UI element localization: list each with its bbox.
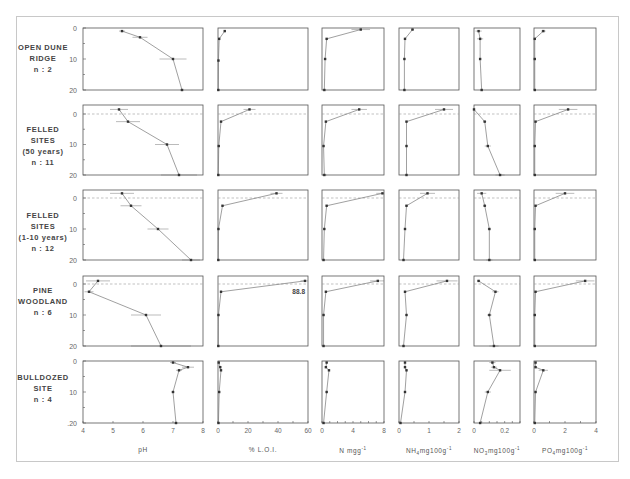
site-label-line: RIDGE	[11, 53, 75, 64]
data-point	[443, 108, 445, 110]
data-point	[325, 361, 327, 363]
data-point	[217, 422, 219, 424]
profile-line	[535, 109, 568, 175]
data-point	[404, 38, 406, 40]
profile-line	[480, 363, 500, 423]
y-tick-label: 20	[69, 257, 77, 264]
site-label: FELLEDSITES(50 years)n : 11	[11, 124, 75, 168]
data-point	[534, 345, 536, 347]
panel-ph: 010.2045678	[67, 358, 205, 435]
data-point	[181, 89, 183, 91]
data-point	[402, 259, 404, 261]
data-point	[217, 345, 219, 347]
data-point	[323, 174, 325, 176]
data-point	[405, 174, 407, 176]
data-point	[479, 58, 481, 60]
site-label: FELLEDSITES(1-10 years)n : 12	[11, 210, 75, 254]
data-point	[403, 89, 405, 91]
data-point	[220, 369, 222, 371]
profile-line	[218, 109, 249, 175]
data-point	[494, 291, 496, 293]
data-point	[248, 108, 250, 110]
data-point	[121, 30, 123, 32]
data-point	[404, 228, 406, 230]
site-label-line: (50 years)	[11, 146, 75, 157]
profile-line	[535, 193, 565, 260]
data-point	[325, 391, 327, 393]
data-point	[488, 228, 490, 230]
data-point	[477, 280, 479, 282]
panel-ph: 01020	[69, 190, 203, 264]
data-point	[404, 361, 406, 363]
data-point	[127, 120, 129, 122]
panel-loi	[217, 105, 308, 176]
data-point	[405, 369, 407, 371]
profile-line	[535, 281, 585, 346]
site-row: 01020	[69, 190, 596, 264]
panel-loi	[217, 190, 308, 261]
data-point	[130, 205, 132, 207]
data-point	[480, 192, 482, 194]
site-label-line: FELLED	[11, 124, 75, 135]
x-tick-label: 8	[201, 427, 205, 434]
data-point	[534, 38, 536, 40]
panel-nh4	[399, 28, 459, 91]
data-point	[534, 89, 536, 91]
data-point	[377, 280, 379, 282]
site-label-line: SITE	[11, 383, 75, 394]
profile-line	[324, 281, 378, 346]
data-point	[172, 58, 174, 60]
data-point	[160, 345, 162, 347]
x-tick-label: 60	[304, 427, 312, 434]
x-tick-label: 40	[274, 427, 282, 434]
data-point	[534, 145, 536, 147]
panel-po4	[534, 276, 596, 347]
data-point	[139, 36, 141, 38]
panel-n	[322, 105, 384, 176]
x-tick-label: 0	[216, 427, 220, 434]
site-label-line: n : 12	[11, 243, 75, 254]
data-point	[584, 280, 586, 282]
site-label-line: OPEN DUNE	[11, 42, 75, 53]
data-point	[218, 391, 220, 393]
data-point	[217, 59, 219, 61]
panel-po4	[534, 190, 596, 261]
y-tick-label: 0	[73, 111, 77, 118]
data-point	[403, 58, 405, 60]
data-point	[322, 314, 324, 316]
panel-nh4: 012	[397, 361, 461, 434]
data-point	[480, 89, 482, 91]
panel-nh4	[399, 105, 459, 176]
profile-line	[173, 363, 188, 423]
data-point	[405, 205, 407, 207]
site-label-line: FELLED	[11, 210, 75, 221]
data-point	[190, 259, 192, 261]
data-point	[493, 366, 495, 368]
data-point	[325, 291, 327, 293]
data-point	[534, 120, 536, 122]
profile-line	[474, 109, 500, 175]
site-label-line: n : 6	[11, 307, 75, 318]
data-point	[325, 205, 327, 207]
data-point	[477, 30, 479, 32]
data-point	[217, 259, 219, 261]
data-point	[484, 120, 486, 122]
profile-line	[324, 193, 383, 260]
x-tick-label: 7	[171, 427, 175, 434]
x-tick-label: 0.2	[500, 427, 509, 434]
data-point	[187, 366, 189, 368]
data-point	[88, 291, 90, 293]
y-tick-label: 20	[69, 87, 77, 94]
data-point	[217, 89, 219, 91]
data-point	[542, 30, 544, 32]
x-tick-label: 8	[382, 427, 386, 434]
site-label-line: (1-10 years)	[11, 232, 75, 243]
data-point	[322, 145, 324, 147]
profile-line	[324, 30, 360, 90]
data-point	[534, 361, 536, 363]
data-point	[534, 366, 536, 368]
data-point	[488, 314, 490, 316]
panel-loi	[217, 28, 308, 91]
data-point	[219, 366, 221, 368]
panel-loi: 88.8	[217, 276, 308, 347]
